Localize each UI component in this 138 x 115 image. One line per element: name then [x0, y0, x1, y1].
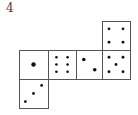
- pip-dot: [31, 62, 35, 66]
- pip-dot: [93, 68, 97, 72]
- face-border: [49, 51, 77, 80]
- pip-dot: [40, 84, 43, 87]
- pip-dot: [66, 56, 69, 59]
- pip-dot: [108, 41, 111, 44]
- die-faces: [20, 22, 131, 109]
- die-face-bottom-left: [20, 80, 49, 109]
- die-face-left: [20, 51, 49, 80]
- pip-dot: [55, 63, 58, 66]
- pip-dot: [108, 56, 111, 59]
- face-border: [103, 22, 131, 51]
- pip-dot: [122, 70, 125, 73]
- pip-dot: [108, 27, 111, 30]
- die-face-mid1: [49, 51, 77, 80]
- pip-dot: [32, 92, 35, 95]
- die-face-mid2: [77, 51, 103, 80]
- die-face-right: [103, 51, 131, 80]
- pip-dot: [108, 70, 111, 73]
- die-face-top-right: [103, 22, 131, 51]
- die-net-diagram: [0, 0, 138, 115]
- pip-dot: [122, 27, 125, 30]
- pip-dot: [66, 63, 69, 66]
- pip-dot: [122, 56, 125, 59]
- pip-dot: [66, 70, 69, 73]
- pip-dot: [55, 56, 58, 59]
- pip-dot: [24, 100, 27, 103]
- pip-dot: [122, 41, 125, 44]
- pip-dot: [82, 58, 86, 62]
- pip-dot: [115, 63, 118, 66]
- pip-dot: [55, 70, 58, 73]
- face-border: [77, 51, 103, 80]
